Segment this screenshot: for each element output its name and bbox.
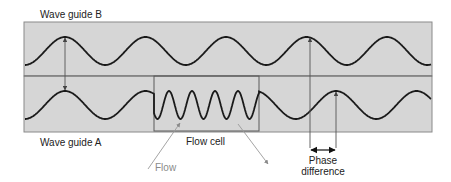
phase-label-line1: Phase bbox=[300, 155, 346, 166]
flow-label: Flow bbox=[155, 162, 176, 173]
wave-guide-b-label: Wave guide B bbox=[40, 9, 102, 20]
flow-cell-label: Flow cell bbox=[186, 136, 225, 147]
wave-guide-b-panel bbox=[24, 22, 432, 76]
phase-label-line2: difference bbox=[300, 166, 346, 177]
wave-guide-a-label: Wave guide A bbox=[40, 137, 101, 148]
interferometer-diagram bbox=[0, 0, 451, 182]
phase-difference-label: Phase difference bbox=[300, 155, 346, 177]
